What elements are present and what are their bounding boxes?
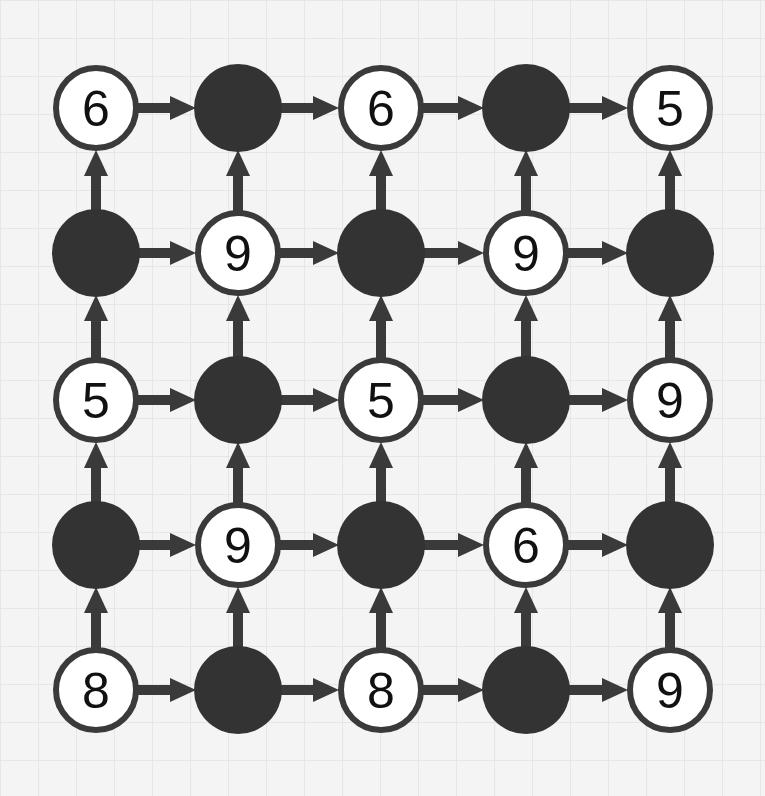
arrow-head-icon [84,442,108,468]
arrow-shaft [91,176,101,211]
arrow-right-r2-c3 [423,241,484,265]
arrow-right-r1-c1 [138,96,196,120]
arrow-shaft [665,321,675,358]
arrow-right-r2-c1 [138,241,196,265]
node-value: 6 [367,81,395,137]
number-node-r3-c1: 5 [56,360,136,440]
node-value: 5 [82,373,110,429]
arrow-shaft [138,685,170,695]
arrow-right-r4-c1 [138,533,196,557]
arrow-head-icon [170,533,196,557]
node-value: 8 [367,663,395,719]
node-value: 9 [224,226,252,282]
arrow-shaft [423,248,458,258]
filled-node-r2-c5 [626,209,714,297]
arrow-head-icon [170,388,196,412]
arrow-up-r5-c3 [369,587,393,648]
arrow-head-icon [170,96,196,120]
arrow-head-icon [369,442,393,468]
arrow-head-icon [313,533,339,557]
arrow-shaft [423,395,458,405]
arrow-shaft [280,248,313,258]
arrow-up-r3-c4 [514,295,538,358]
filled-node-r2-c3 [337,209,425,297]
arrow-shaft [280,103,313,113]
arrow-head-icon [170,678,196,702]
arrow-shaft [233,613,243,648]
arrow-shaft [376,468,386,503]
arrow-shaft [376,613,386,648]
filled-circle-icon [482,646,570,734]
arrow-head-icon [313,678,339,702]
number-node-r3-c5: 9 [630,360,710,440]
arrow-head-icon [313,96,339,120]
arrow-head-icon [458,533,484,557]
filled-node-r3-c2 [194,356,282,444]
number-node-r1-c1: 6 [56,68,136,148]
node-value: 5 [367,373,395,429]
arrow-right-r4-c4 [568,533,628,557]
arrow-shaft [138,395,170,405]
arrow-head-icon [84,295,108,321]
arrow-up-r2-c5 [658,150,682,211]
number-node-r2-c4: 9 [486,213,566,293]
filled-circle-icon [337,501,425,589]
arrow-right-r3-c1 [138,388,196,412]
arrow-shaft [521,468,531,503]
arrow-shaft [138,540,170,550]
filled-circle-icon [52,501,140,589]
arrow-up-r4-c3 [369,442,393,503]
node-value: 5 [656,81,684,137]
filled-circle-icon [626,209,714,297]
arrow-up-r5-c4 [514,587,538,648]
arrow-head-icon [369,150,393,176]
arrow-head-icon [84,150,108,176]
filled-node-r1-c2 [194,64,282,152]
arrow-head-icon [313,388,339,412]
arrow-shaft [665,468,675,503]
arrow-up-r2-c1 [84,150,108,211]
number-node-r3-c3: 5 [341,360,421,440]
filled-node-r5-c2 [194,646,282,734]
arrow-head-icon [602,678,628,702]
arrow-shaft [568,540,602,550]
filled-circle-icon [337,209,425,297]
arrow-shaft [521,176,531,211]
arrow-up-r5-c2 [226,587,250,648]
arrow-right-r2-c4 [568,241,628,265]
arrow-right-r5-c3 [423,678,484,702]
arrow-shaft [423,685,458,695]
arrow-shaft [376,176,386,211]
arrow-shaft [280,395,313,405]
arrow-shaft [280,685,313,695]
arrow-shaft [280,540,313,550]
grid-diagram: 6659955996889 [0,0,765,796]
number-node-r1-c5: 5 [630,68,710,148]
arrow-head-icon [226,587,250,613]
arrow-head-icon [369,295,393,321]
filled-circle-icon [52,209,140,297]
filled-node-r4-c1 [52,501,140,589]
arrow-shaft [521,321,531,358]
number-node-r4-c2: 9 [198,505,278,585]
arrow-right-r5-c1 [138,678,196,702]
arrow-head-icon [458,678,484,702]
arrow-shaft [568,685,602,695]
arrow-head-icon [514,442,538,468]
filled-node-r4-c3 [337,501,425,589]
arrow-head-icon [226,295,250,321]
arrow-right-r1-c4 [568,96,628,120]
arrow-head-icon [602,388,628,412]
arrow-up-r3-c1 [84,295,108,358]
filled-node-r5-c4 [482,646,570,734]
arrow-up-r3-c2 [226,295,250,358]
arrow-head-icon [658,150,682,176]
arrow-shaft [568,103,602,113]
arrow-head-icon [170,241,196,265]
filled-circle-icon [194,64,282,152]
arrow-head-icon [84,587,108,613]
arrow-up-r4-c5 [658,442,682,503]
arrow-head-icon [658,295,682,321]
arrow-shaft [138,248,170,258]
arrow-right-r1-c3 [423,96,484,120]
